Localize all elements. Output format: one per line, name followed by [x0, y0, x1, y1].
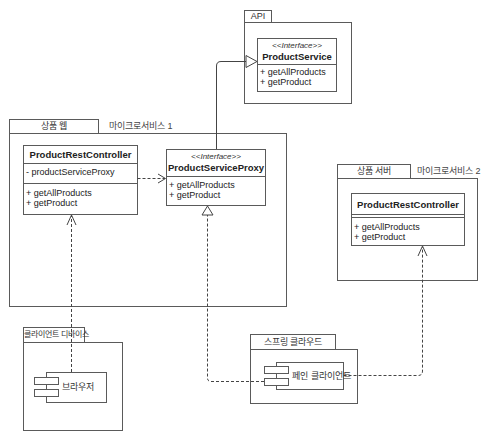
rest-controller-2-op-1: + getAllProducts	[354, 223, 420, 232]
component-feign-label: 페인 클라이언트	[292, 372, 351, 381]
package-ms1-note: 마이크로서비스 1	[109, 122, 173, 131]
proxy-op-2: + getProduct	[169, 191, 220, 200]
product-service-op-1: + getAllProducts	[260, 68, 326, 77]
package-ms2-note: 마이크로서비스 2	[417, 167, 481, 176]
dependency-arrow-controller-to-proxy	[138, 174, 166, 183]
product-service-name: ProductService	[258, 52, 336, 62]
product-service-stereotype: <<Interface>>	[258, 42, 336, 50]
rest-controller-2-op-2: + getProduct	[354, 233, 405, 242]
realization-arrow-feign-to-proxy	[202, 206, 264, 382]
rest-controller-1-name: ProductRestController	[24, 150, 137, 160]
rest-controller-1-op-2: + getProduct	[26, 199, 77, 208]
package-ms2-label: 상품 서버	[338, 167, 410, 176]
rest-controller-2-name: ProductRestController	[352, 200, 464, 210]
package-api-label: API	[245, 12, 271, 21]
package-ms1-label: 상품 웹	[10, 122, 98, 131]
diagram-canvas	[0, 0, 485, 439]
package-cloud-label: 스프링 클라우드	[251, 338, 335, 347]
dependency-arrow-feign-to-controller-2	[344, 246, 428, 376]
rest-controller-1-attr-1: - productServiceProxy	[26, 168, 115, 177]
proxy-name: ProductServiceProxy	[167, 163, 265, 173]
rest-controller-1-op-1: + getAllProducts	[26, 189, 92, 198]
component-browser-label: 브라우저	[62, 383, 94, 392]
product-service-op-2: + getProduct	[260, 78, 311, 87]
proxy-op-1: + getAllProducts	[169, 181, 235, 190]
proxy-stereotype: <<Interface>>	[167, 153, 265, 161]
generalization-arrow	[217, 56, 258, 150]
dependency-arrow-browser-to-controller	[67, 215, 76, 372]
package-client-label: 클라이언트 디바이스	[24, 331, 84, 339]
